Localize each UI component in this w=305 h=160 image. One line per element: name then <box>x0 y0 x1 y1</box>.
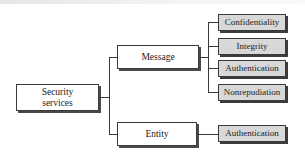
leaf-node-integrity: Integrity <box>218 38 286 55</box>
leaf-label: Authentication <box>225 63 279 73</box>
connector-leaf-1 <box>208 22 218 23</box>
leaf-node-message-authentication: Authentication <box>218 60 286 77</box>
leaf-label: Nonrepudiation <box>224 87 281 97</box>
leaf-node-nonrepudiation: Nonrepudiation <box>218 84 286 101</box>
root-label-line1: Security <box>42 87 74 98</box>
connector-leaf-3 <box>208 68 218 69</box>
connector-trunk-1 <box>109 57 110 135</box>
leaf-node-confidentiality: Confidentiality <box>218 14 286 31</box>
connector-entity-out <box>197 134 218 135</box>
branch-label: Entity <box>145 129 168 140</box>
branch-label: Message <box>141 52 174 63</box>
connector-to-message <box>109 57 117 58</box>
connector-leaf-4 <box>208 92 218 93</box>
connector-leaf-2 <box>208 46 218 47</box>
connector-root <box>99 97 109 98</box>
leaf-label: Confidentiality <box>225 17 280 27</box>
connector-message-out <box>199 57 208 58</box>
root-label-line2: services <box>42 98 73 109</box>
branch-node-message: Message <box>117 45 199 69</box>
connector-trunk-2 <box>208 22 209 93</box>
connector-to-entity <box>109 134 117 135</box>
scan-edge <box>0 0 305 4</box>
root-node-security-services: Security services <box>16 84 99 111</box>
branch-node-entity: Entity <box>117 122 197 146</box>
leaf-node-entity-authentication: Authentication <box>218 125 286 142</box>
leaf-label: Authentication <box>225 128 279 138</box>
leaf-label: Integrity <box>237 41 268 51</box>
